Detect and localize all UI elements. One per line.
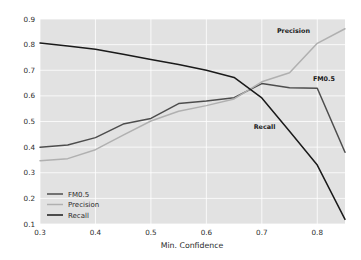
- legend-label-recall: Recall: [68, 212, 89, 220]
- annotation-fm0-5: FM0.5: [313, 75, 335, 83]
- x-axis-title: Min. Confidence: [161, 241, 224, 250]
- legend-label-precision: Precision: [68, 201, 99, 209]
- x-tick-label: 0.6: [201, 228, 213, 237]
- y-tick-label: 0.8: [24, 40, 36, 49]
- y-tick-label: 0.6: [24, 91, 36, 100]
- y-tick-label: 0.1: [24, 220, 35, 229]
- legend-label-fm0-5: FM0.5: [68, 191, 89, 199]
- x-tick-label: 0.5: [145, 228, 156, 237]
- y-tick-label: 0.2: [24, 194, 35, 203]
- line-chart: 0.30.40.50.60.70.8 0.10.20.30.40.50.60.7…: [0, 0, 361, 260]
- x-tick-label: 0.8: [312, 228, 324, 237]
- y-tick-label: 0.5: [24, 117, 35, 126]
- chart-figure: 0.30.40.50.60.70.8 0.10.20.30.40.50.60.7…: [0, 0, 361, 260]
- x-tick-label: 0.3: [34, 228, 45, 237]
- y-tick-label: 0.9: [24, 15, 36, 24]
- y-tick-label: 0.3: [24, 168, 35, 177]
- annotation-recall: Recall: [254, 123, 276, 131]
- y-axis-tick-labels: 0.10.20.30.40.50.60.70.80.9: [24, 15, 36, 229]
- x-axis-tick-labels: 0.30.40.50.60.70.8: [34, 228, 323, 237]
- y-tick-label: 0.4: [24, 143, 36, 152]
- x-tick-label: 0.7: [256, 228, 267, 237]
- x-tick-label: 0.4: [90, 228, 102, 237]
- annotation-precision: Precision: [277, 27, 311, 35]
- y-tick-label: 0.7: [24, 66, 35, 75]
